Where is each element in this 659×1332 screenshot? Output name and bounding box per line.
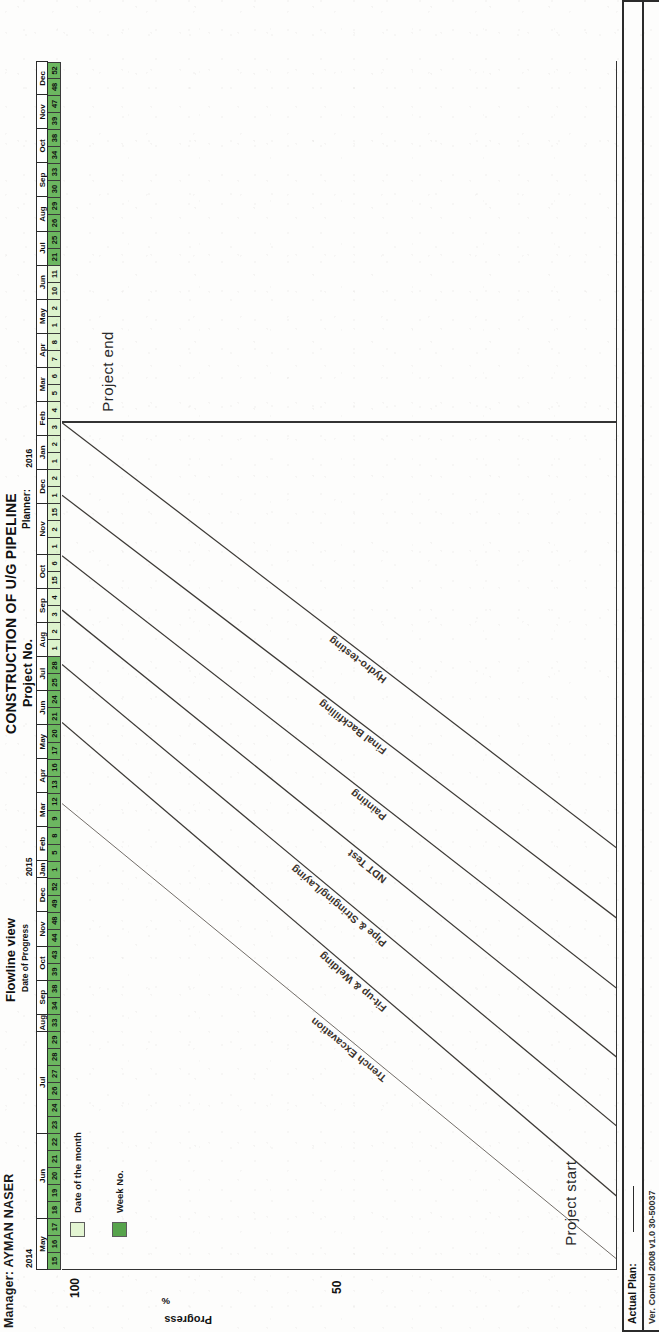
actual-plan-line-sample [633, 1186, 634, 1232]
calendar-week-cell: 30 [48, 181, 61, 198]
actual-plan-label: Actual Plan: [626, 1263, 638, 1324]
calendar-week-cell: 18 [48, 1202, 61, 1219]
calendar-month-cell: Aug [36, 1015, 48, 1032]
calendar-week-cell: 24 [48, 1100, 61, 1117]
calendar-week-cell: 21 [48, 249, 61, 266]
calendar-month-cell: Dec [36, 470, 48, 504]
calendar-date-cell: 1 [48, 487, 61, 504]
calendar-month-cell: Jul [36, 657, 48, 691]
calendar-month-cell: Oct [36, 555, 48, 589]
calendar-date-cell: 2 [48, 436, 61, 453]
calendar-month-cell: Jan [36, 436, 48, 470]
calendar-week-cell: 26 [48, 215, 61, 232]
calendar-date-cell: 4 [48, 402, 61, 419]
footer-mid-rule [642, 0, 644, 1332]
calendar-month-cell: Oct [36, 129, 48, 163]
y-axis-unit: % [162, 1296, 170, 1307]
flowline-title: Flowline view [3, 918, 18, 1002]
flowline-series [62, 495, 617, 918]
version-control-note: Ver. Control 2008 v1.0 30-50037 [647, 1190, 657, 1324]
footer-right-rule [622, 1, 659, 3]
calendar-month-cell: Nov [36, 912, 48, 946]
calendar-date-cell: 1 [48, 317, 61, 334]
manager-label: Manager: AYMAN NASER [2, 1174, 16, 1329]
calendar-date-cell: 5 [48, 385, 61, 402]
project-end-annotation: Project end [99, 331, 116, 411]
calendar-week-cell: 38 [48, 130, 61, 147]
calendar-month-cell: Dec [36, 878, 48, 912]
calendar-week-cell: 12 [48, 794, 61, 811]
y-axis-title: Progress [72, 1314, 212, 1326]
calendar-date-cell: 15 [48, 504, 61, 521]
calendar-date-cell: 3 [48, 606, 61, 623]
calendar-date-cell: 8 [48, 334, 61, 351]
calendar-week-cell: 5 [48, 845, 61, 862]
calendar-date-cell: 2 [48, 521, 61, 538]
calendar-month-cell: Nov [36, 504, 48, 555]
calendar-date-cell: 2 [48, 300, 61, 317]
calendar-week-cell: 20 [48, 1168, 61, 1185]
flowline-series [62, 610, 617, 1057]
calendar-date-cell: 1 [48, 453, 61, 470]
calendar-week-cell: 23 [48, 1117, 61, 1134]
calendar-week-cell: 34 [48, 998, 61, 1015]
calendar-week-cell: 27 [48, 1066, 61, 1083]
y-tick-100: 100 [68, 1278, 82, 1298]
calendar-week-cell: 39 [48, 113, 61, 130]
y-tick-50: 50 [330, 1281, 344, 1294]
project-end-divider [62, 421, 616, 423]
plot-area: Trench ExcavationFit-up & WeldingPipe & … [62, 61, 617, 1270]
calendar-week-cell: 33 [48, 164, 61, 181]
calendar-week-cell: 52 [48, 879, 61, 896]
flowline-series [62, 804, 617, 1260]
calendar-week-cell: 48 [48, 79, 61, 96]
calendar-week-cell: 26 [48, 1083, 61, 1100]
calendar-month-cell: Aug [36, 197, 48, 231]
calendar-month-cell: Nov [36, 95, 48, 129]
calendar-date-cell: 2 [48, 623, 61, 640]
calendar-date-cell: 6 [48, 368, 61, 385]
scanned-sheet: Manager: AYMAN NASER CONSTRUCTION OF U/G… [0, 0, 659, 1332]
calendar-week-cell: 33 [48, 1015, 61, 1032]
calendar-week-cell: 16 [48, 760, 61, 777]
calendar-week-cell: 9 [48, 811, 61, 828]
calendar-month-cell: Dec [36, 61, 48, 95]
calendar-date-cell: 7 [48, 351, 61, 368]
calendar-week-cell: 17 [48, 1219, 61, 1236]
calendar-date-cell: 2 [48, 470, 61, 487]
calendar-week-cell: 8 [48, 828, 61, 845]
calendar-year-label: 2014 [24, 1249, 34, 1268]
flowline-subtitle: Date of Progress [20, 924, 30, 992]
calendar-week-cell: 44 [48, 930, 61, 947]
calendar-month-cell: Aug [36, 623, 48, 657]
calendar-month-cell: Mar [36, 368, 48, 402]
calendar-month-cell: Jul [36, 232, 48, 266]
footer-strip: Actual Plan: Ver. Control 2008 v1.0 30-5… [622, 0, 659, 1332]
calendar-month-cell: May [36, 725, 48, 759]
calendar-date-cell: 6 [48, 555, 61, 572]
calendar-week-cell: 28 [48, 657, 61, 674]
calendar-week-cell: 22 [48, 1134, 61, 1151]
calendar-week-cell: 34 [48, 147, 61, 164]
calendar-week-cell: 29 [48, 198, 61, 215]
calendar-month-cell: Jun [36, 266, 48, 300]
calendar-week-cell: 49 [48, 896, 61, 913]
flowline-series [62, 423, 617, 849]
flowline-series [62, 723, 617, 1197]
calendar-week-cell: 17 [48, 743, 61, 760]
calendar-month-cell: May [36, 300, 48, 334]
calendar-week-cell: 29 [48, 1032, 61, 1049]
calendar-date-cell: 1 [48, 538, 61, 555]
calendar-month-cell: Apr [36, 759, 48, 793]
calendar-week-cell: 25 [48, 674, 61, 691]
calendar-year-label: 2015 [24, 857, 34, 876]
y-axis-block: Progress % 100 50 [62, 1270, 617, 1332]
calendar-header: MayJunJulAugSepOctNovDecJanFebMarAprMayJ… [36, 61, 62, 1270]
calendar-month-cell: Apr [36, 334, 48, 368]
planner-label: Planner: [21, 489, 32, 529]
calendar-week-cell: 1 [48, 862, 61, 879]
calendar-week-cell: 48 [48, 913, 61, 930]
calendar-month-cell: Sep [36, 589, 48, 623]
calendar-month-cell: Jun [36, 1134, 48, 1219]
calendar-week-cell: 15 [48, 1253, 61, 1270]
